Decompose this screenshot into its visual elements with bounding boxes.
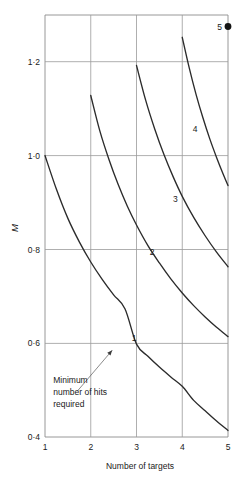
annotation-line-3: required	[53, 399, 84, 409]
x-tick-label-5: 5	[226, 442, 231, 452]
x-axis-title: Number of targets	[106, 461, 174, 471]
curve-series-4	[182, 37, 228, 185]
marker-point-group: 5	[217, 22, 231, 32]
curve-label-4: 4	[193, 124, 198, 134]
data-point-marker-5	[225, 23, 232, 30]
x-tick-label-1: 1	[43, 442, 48, 452]
annotation-leader-line	[77, 350, 112, 391]
chart-figure: 0·4 0·6 0·8 1·0 1·2 1 2 3 4 5 Number of …	[0, 0, 242, 480]
x-tick-label-2: 2	[88, 442, 93, 452]
line-chart: 0·4 0·6 0·8 1·0 1·2 1 2 3 4 5 Number of …	[0, 0, 242, 480]
y-tick-label-0-4: 0·4	[28, 432, 41, 442]
data-point-label-5: 5	[217, 22, 222, 32]
annotation-line-1: Minimum	[53, 375, 87, 385]
y-axis-title: M	[9, 224, 20, 232]
y-tick-label-0-6: 0·6	[28, 338, 41, 348]
annotation-line-2: number of hits	[53, 387, 107, 397]
y-axis-tick-labels: 0·4 0·6 0·8 1·0 1·2	[28, 57, 41, 442]
x-axis-tick-labels: 1 2 3 4 5	[43, 442, 231, 452]
x-tick-label-4: 4	[180, 442, 185, 452]
y-tick-label-1-0: 1·0	[28, 151, 41, 161]
y-tick-label-1-2: 1·2	[28, 57, 41, 67]
y-tick-label-0-8: 0·8	[28, 245, 41, 255]
annotation-leader	[77, 350, 112, 391]
annotation-text-block: Minimum number of hits required	[53, 375, 107, 409]
curve-label-2: 2	[150, 247, 155, 257]
x-tick-label-3: 3	[134, 442, 139, 452]
curve-label-3: 3	[173, 194, 178, 204]
curve-label-1: 1	[132, 333, 137, 343]
